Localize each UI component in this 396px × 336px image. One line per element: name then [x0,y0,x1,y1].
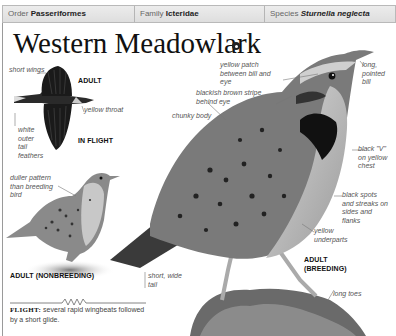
label-white-tail: white outer tail feathers [18,126,44,160]
label-long-bill: long, pointed bill [362,61,392,87]
caption-flight-adult: ADULT [78,76,102,85]
bird-illustrations [0,0,396,336]
caption-nonbreeding: ADULT (NONBREEDING) [10,271,94,280]
caption-in-flight: IN FLIGHT [78,136,113,145]
label-blackish-stripe: blackish brown stripe behind eye [196,89,282,106]
label-duller-pattern: duller pattern than breeding bird [10,174,58,200]
label-yellow-throat: yellow throat [84,106,134,115]
label-black-v: black "V" on yellow chest [358,145,394,171]
field-guide-page: Order Passeriformes Family Icteridae Spe… [0,0,396,336]
label-black-spots: black spots and streaks on sides and fla… [342,191,390,225]
label-short-wings: short wings [9,66,44,75]
label-yellow-patch: yellow patch between bill and eye [220,61,278,87]
caption-breeding: (BREEDING) [304,264,347,273]
flight-label: FLIGHT: [10,306,41,314]
caption-breeding-adult: ADULT [304,255,328,264]
label-chunky-body: chunky body [172,112,211,121]
label-yellow-underparts: yellow underparts [314,227,354,244]
label-long-toes: long toes [333,290,361,299]
flight-description: FLIGHT: several rapid wingbeats followed… [10,305,150,324]
label-short-tail: short, wide tail [148,272,184,289]
